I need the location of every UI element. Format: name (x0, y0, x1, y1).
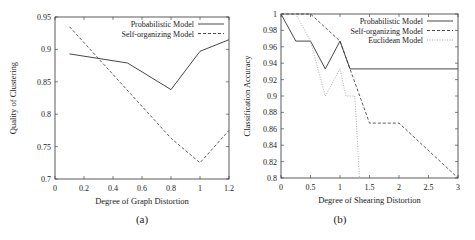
x-tick-label: 0 (53, 184, 57, 193)
x-tick-label: 1.5 (365, 183, 375, 192)
legend-label: Probabilistic Model (360, 17, 424, 26)
x-tick-label: 3 (456, 183, 460, 192)
y-tick-label: 0.7 (41, 175, 51, 184)
x-tick-label: 0.2 (79, 184, 89, 193)
figure: 00.20.40.60.811.20.70.750.80.850.90.95De… (0, 0, 475, 240)
x-axis-label: Degree of Graph Distortion (95, 196, 189, 206)
y-tick-label: 0.9 (267, 92, 277, 101)
series-line-probabilistic-model (70, 40, 230, 90)
x-tick-label: 1.2 (224, 184, 234, 193)
y-tick-label: 1 (273, 10, 277, 19)
y-axis-ticks: 0.80.820.840.860.880.90.920.940.960.981 (263, 10, 458, 183)
x-tick-label: 1 (338, 183, 342, 192)
y-tick-label: 0.75 (37, 143, 51, 152)
series-line-euclidean-model (281, 14, 360, 178)
y-tick-label: 0.88 (263, 108, 277, 117)
x-tick-label: 0.8 (166, 184, 176, 193)
y-tick-label: 0.8 (267, 174, 277, 183)
chart-panel-b: 00.511.522.530.80.820.840.860.880.90.920… (242, 10, 460, 226)
x-tick-label: 0.4 (108, 184, 118, 193)
legend-label: Euclidean Model (368, 36, 424, 45)
y-axis-label: Quality of Clustering (8, 61, 18, 134)
series-line-self-organizing-model (70, 27, 230, 163)
x-tick-label: 1 (198, 184, 202, 193)
y-tick-label: 0.94 (263, 59, 277, 68)
legend-label: Self-organizing Model (350, 27, 423, 36)
x-axis-ticks: 00.20.40.60.811.2 (53, 17, 234, 193)
panel-label: (a) (136, 213, 149, 226)
y-tick-label: 0.8 (41, 110, 51, 119)
y-axis-label: Classification Accuracy (242, 55, 252, 137)
legend-label: Probabilistic Model (131, 20, 195, 29)
x-tick-label: 0.5 (306, 183, 316, 192)
x-axis-label: Degree of Shearing Distortion (318, 195, 421, 205)
x-tick-label: 2.5 (424, 183, 434, 192)
chart-panel-a: 00.20.40.60.811.20.70.750.80.850.90.95De… (8, 13, 234, 226)
y-axis-ticks: 0.70.750.80.850.90.95 (37, 13, 229, 184)
x-tick-label: 2 (397, 183, 401, 192)
y-tick-label: 0.84 (263, 141, 277, 150)
y-tick-label: 0.85 (37, 78, 51, 87)
y-tick-label: 0.96 (263, 43, 277, 52)
x-tick-label: 0 (279, 183, 283, 192)
legend-label: Self-organizing Model (121, 30, 194, 39)
y-tick-label: 0.9 (41, 45, 51, 54)
x-tick-label: 0.6 (137, 184, 147, 193)
y-tick-label: 0.98 (263, 26, 277, 35)
y-tick-label: 0.86 (263, 125, 277, 134)
panel-label: (b) (334, 213, 347, 226)
plot-frame (55, 17, 229, 179)
y-tick-label: 0.92 (263, 76, 277, 85)
y-tick-label: 0.82 (263, 158, 277, 167)
y-tick-label: 0.95 (37, 13, 51, 22)
